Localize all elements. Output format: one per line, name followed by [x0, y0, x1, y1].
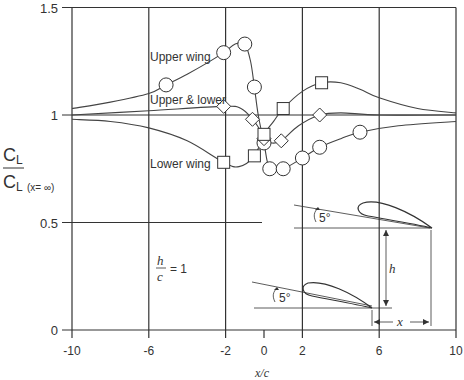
circle-marker — [159, 78, 173, 92]
grid-lines — [62, 8, 456, 339]
y-tick-label: 0 — [51, 323, 58, 338]
gap-h-label: h — [389, 261, 396, 276]
diamond-marker — [313, 108, 327, 122]
tandem-wing-diagram — [252, 202, 432, 326]
label-lower-wing: Lower wing — [150, 157, 211, 171]
circle-marker — [247, 80, 261, 94]
x-tick-label: -2 — [220, 344, 231, 358]
lower-angle-label: 5° — [279, 291, 291, 305]
circle-marker — [295, 151, 309, 165]
x-tick-label: -6 — [143, 344, 154, 358]
diamond-marker — [274, 134, 288, 148]
axes: -10-6-20261000.511.5 — [40, 1, 463, 359]
y-tick-label: 1.5 — [40, 1, 58, 16]
ylabel-denominator-sub: L — [16, 180, 23, 194]
ylabel-numerator: C — [3, 145, 16, 165]
square-marker — [248, 150, 260, 162]
square-marker — [316, 77, 328, 89]
upper-angle-label: 5° — [319, 211, 331, 225]
h-over-c-annotation: h c = 1 — [156, 253, 187, 284]
circle-marker — [313, 140, 327, 154]
ylabel-denominator-cond: (x= ∞) — [27, 182, 54, 193]
h-over-c-equals: = 1 — [170, 262, 187, 276]
curve-circle — [72, 42, 456, 171]
ylabel-denominator: C — [3, 172, 16, 192]
x-tick-label: 10 — [449, 344, 463, 358]
data-curves — [72, 42, 456, 171]
upper-airfoil — [358, 202, 432, 228]
x-tick-label: -10 — [63, 344, 81, 358]
circle-marker — [263, 162, 277, 176]
h-over-c-numerator: h — [157, 253, 164, 268]
x-tick-label: 2 — [299, 344, 306, 358]
x-tick-label: 0 — [261, 344, 268, 358]
label-upper-lower: Upper & lower — [150, 93, 226, 107]
label-upper-wing: Upper wing — [150, 50, 211, 64]
circle-marker — [276, 162, 290, 176]
circle-marker — [217, 46, 231, 60]
y-tick-label: 1 — [51, 108, 58, 123]
circle-marker — [353, 125, 367, 139]
h-over-c-denominator: c — [157, 269, 163, 284]
lift-ratio-chart: -10-6-20261000.511.5 Upper wing Upper & … — [0, 0, 464, 380]
circle-marker — [238, 37, 252, 51]
y-tick-label: 0.5 — [40, 216, 58, 231]
ylabel-numerator-sub: L — [16, 153, 23, 167]
y-axis-label: C L C L (x= ∞) — [3, 145, 54, 194]
x-axis-label: x/c — [254, 366, 270, 380]
square-marker — [258, 128, 270, 140]
x-tick-label: 6 — [376, 344, 383, 358]
stagger-x-label: x — [396, 314, 403, 329]
curve-square — [72, 82, 456, 167]
square-marker — [218, 156, 230, 168]
square-marker — [277, 103, 289, 115]
